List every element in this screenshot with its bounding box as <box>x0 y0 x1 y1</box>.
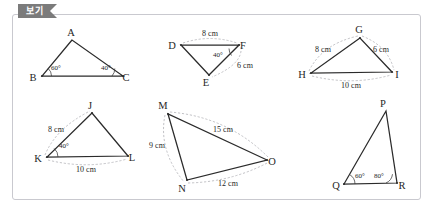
vertex-dot-m <box>167 113 169 115</box>
length-label-kl: 10 cm <box>76 165 97 174</box>
vertex-label-p: P <box>380 98 386 109</box>
angle-label-q: 60° <box>355 172 365 180</box>
length-guide-mo <box>170 112 268 157</box>
example-tab: 보기 <box>18 4 50 18</box>
vertex-label-a: A <box>67 27 75 38</box>
vertex-label-n: N <box>178 183 186 194</box>
vertex-label-g: G <box>355 24 363 35</box>
vertex-label-r: R <box>398 180 405 191</box>
vertex-label-e: E <box>203 77 209 88</box>
vertex-dot-h <box>310 72 312 74</box>
length-guide-df <box>183 39 237 44</box>
triangle-def-outline <box>181 45 239 75</box>
length-label-hi: 10 cm <box>341 81 362 90</box>
vertex-label-q: Q <box>332 180 340 191</box>
figure-canvas: A B C 60° 40° D E F 40° 8 cm 6 cm <box>0 0 434 213</box>
screenshot-root: 보기 A B C 60° 40° D E F <box>0 0 434 213</box>
vertex-label-k: K <box>34 153 42 164</box>
vertex-dot-i <box>391 71 393 73</box>
triangle-pqr: P Q R 60° 80° <box>332 98 405 191</box>
angle-label-k: 40° <box>59 142 69 150</box>
length-label-gi: 6 cm <box>373 45 390 54</box>
vertex-label-l: L <box>129 152 135 163</box>
vertex-label-m: M <box>158 100 168 111</box>
vertex-dot-d <box>180 44 182 46</box>
angle-label-r: 80° <box>374 172 384 180</box>
vertex-dot-g <box>359 37 361 39</box>
triangle-abc: A B C 60° 40° <box>29 27 129 83</box>
triangle-def: D E F 40° 8 cm 6 cm <box>168 29 253 88</box>
vertex-label-f: F <box>240 40 246 51</box>
triangle-ghi: G H I 8 cm 6 cm 10 cm <box>298 24 399 90</box>
angle-label-b: 60° <box>51 64 61 72</box>
angle-label-c: 40° <box>101 64 111 72</box>
angle-arc-r <box>386 174 393 183</box>
length-label-hg: 8 cm <box>315 45 332 54</box>
triangle-jkl: J K L 40° 8 cm 10 cm <box>34 100 135 174</box>
example-tab-label: 보기 <box>26 4 43 18</box>
length-label-df: 8 cm <box>202 29 219 38</box>
triangle-mno: M N O 15 cm 9 cm 12 cm <box>149 100 276 194</box>
vertex-label-b: B <box>29 72 36 83</box>
length-label-mo: 15 cm <box>213 125 234 134</box>
angle-label-f: 40° <box>213 51 223 59</box>
tab-pointer-icon <box>50 4 57 18</box>
triangle-pqr-outline <box>344 111 397 184</box>
length-guide-mn <box>164 115 184 182</box>
vertex-dot-q <box>343 183 345 185</box>
vertex-dot-e <box>208 74 210 76</box>
vertex-dot-j <box>91 112 93 114</box>
length-guide-kl <box>48 159 127 165</box>
vertex-label-j: J <box>88 100 92 111</box>
vertex-dot-n <box>186 179 188 181</box>
vertex-label-h: H <box>298 69 306 80</box>
length-label-fe: 6 cm <box>237 61 254 70</box>
length-label-no: 12 cm <box>218 179 239 188</box>
triangle-jkl-outline <box>47 113 128 157</box>
vertex-label-i: I <box>395 69 399 80</box>
length-label-mn: 9 cm <box>149 141 166 150</box>
vertex-label-d: D <box>168 40 176 51</box>
length-label-kj: 8 cm <box>48 125 65 134</box>
vertex-label-c: C <box>122 72 129 83</box>
vertex-dot-k <box>46 156 48 158</box>
length-guide-hi <box>312 75 391 81</box>
vertex-dot-b <box>41 75 43 77</box>
triangle-ghi-outline <box>311 38 392 73</box>
vertex-label-o: O <box>268 156 276 167</box>
